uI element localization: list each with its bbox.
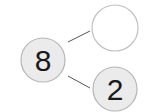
connector-line-bottom (68, 76, 90, 88)
connector-line-top (68, 31, 90, 42)
number-bond-diagram: 8 2 (0, 0, 150, 112)
whole-value: 8 (35, 44, 52, 77)
whole-circle: 8 (21, 38, 65, 82)
part-value-bottom: 2 (107, 73, 124, 106)
part-circle-top[interactable] (92, 5, 138, 51)
part-circle-bottom: 2 (93, 67, 137, 111)
